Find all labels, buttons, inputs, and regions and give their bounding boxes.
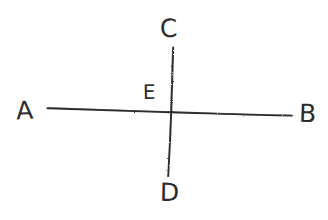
point-label-c: C: [160, 16, 178, 42]
diagram-canvas: A B C D E: [0, 0, 328, 220]
point-label-b: B: [299, 101, 317, 127]
line-ab-group: [48, 108, 293, 116]
point-label-a: A: [15, 98, 33, 124]
intersection-label-e: E: [143, 82, 156, 102]
point-label-d: D: [160, 180, 180, 205]
